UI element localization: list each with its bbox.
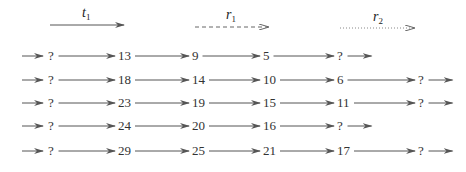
value-node: 21: [263, 143, 276, 158]
legend-t1: t1: [50, 5, 124, 25]
legend-label: t1: [82, 5, 90, 22]
unknown-node: ?: [418, 72, 424, 87]
unknown-node: ?: [337, 118, 343, 133]
value-node: 19: [192, 95, 205, 110]
value-node: 17: [337, 143, 351, 158]
value-node: 6: [337, 72, 344, 87]
chain-row: ?1814106?: [22, 72, 453, 87]
value-node: 25: [192, 143, 205, 158]
unknown-node: ?: [418, 143, 424, 158]
value-node: 16: [263, 118, 277, 133]
legend-r1: r1: [195, 7, 268, 27]
value-node: 10: [263, 72, 276, 87]
chain-row: ?1395?: [22, 48, 372, 63]
legend-label: r1: [226, 7, 236, 24]
unknown-node: ?: [48, 48, 54, 63]
value-node: 24: [118, 118, 132, 133]
chain-rows: ?1395??1814106??23191511??242016??292521…: [22, 48, 453, 158]
unknown-node: ?: [48, 143, 54, 158]
value-node: 29: [118, 143, 131, 158]
value-node: 13: [118, 48, 131, 63]
unknown-node: ?: [48, 118, 54, 133]
legend-label: r2: [373, 9, 383, 26]
value-node: 9: [192, 48, 199, 63]
unknown-node: ?: [337, 48, 343, 63]
unknown-node: ?: [418, 95, 424, 110]
chain-row: ?23191511?: [22, 95, 453, 110]
legend-r2: r2: [340, 9, 414, 28]
value-node: 15: [263, 95, 276, 110]
unknown-node: ?: [48, 72, 54, 87]
value-node: 5: [263, 48, 270, 63]
value-node: 18: [118, 72, 131, 87]
value-node: 14: [192, 72, 206, 87]
chain-diagram: t1 r1 r2 ?1395??1814106??23191511??24201…: [0, 0, 466, 172]
value-node: 11: [337, 95, 350, 110]
value-node: 20: [192, 118, 205, 133]
legend: t1 r1 r2: [50, 5, 414, 28]
chain-row: ?29252117?: [22, 143, 453, 158]
unknown-node: ?: [48, 95, 54, 110]
chain-row: ?242016?: [22, 118, 372, 133]
value-node: 23: [118, 95, 131, 110]
